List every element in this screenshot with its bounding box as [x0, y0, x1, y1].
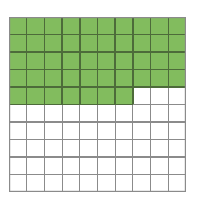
grid-cell-shaded — [133, 17, 151, 35]
grid-cell-unshaded — [9, 157, 27, 175]
grid-cell-shaded — [62, 70, 80, 88]
grid-container — [9, 17, 186, 192]
grid-cell-unshaded — [27, 122, 45, 140]
grid-cell-unshaded — [133, 175, 151, 193]
grid-cell-shaded — [151, 17, 169, 35]
grid-cell-shaded — [168, 35, 186, 53]
grid-cell-unshaded — [80, 157, 98, 175]
grid-cell-unshaded — [168, 105, 186, 123]
grid-cell-unshaded — [151, 175, 169, 193]
grid-cell-shaded — [9, 52, 27, 70]
grid-cell-unshaded — [168, 87, 186, 105]
grid-cell-unshaded — [133, 87, 151, 105]
grid-cell-unshaded — [27, 157, 45, 175]
grid-cell-shaded — [9, 87, 27, 105]
grid-cell-shaded — [62, 52, 80, 70]
grid-cell-shaded — [9, 17, 27, 35]
grid-cell-unshaded — [80, 122, 98, 140]
grid-cell-unshaded — [80, 140, 98, 158]
grid-cell-shaded — [133, 52, 151, 70]
grid-cell-unshaded — [80, 105, 98, 123]
hundred-square-figure: A 10 by 10 grid of equal square cells. T… — [0, 0, 197, 203]
grid-cell-unshaded — [133, 122, 151, 140]
grid-cell-unshaded — [27, 175, 45, 193]
grid-cell-shaded — [27, 35, 45, 53]
grid-cell-unshaded — [44, 140, 62, 158]
grid-cell-unshaded — [9, 105, 27, 123]
grid-cell-shaded — [80, 17, 98, 35]
grid-cell-shaded — [80, 70, 98, 88]
grid-cell-shaded — [115, 87, 133, 105]
grid-cell-unshaded — [9, 122, 27, 140]
grid-cell-unshaded — [98, 140, 116, 158]
grid-cell-unshaded — [98, 122, 116, 140]
grid-cell-unshaded — [62, 140, 80, 158]
grid-cell-unshaded — [44, 175, 62, 193]
grid-cell-shaded — [9, 70, 27, 88]
grid-cell-shaded — [168, 70, 186, 88]
grid-cell-unshaded — [44, 157, 62, 175]
grid-cell-shaded — [133, 35, 151, 53]
grid-cell-shaded — [27, 17, 45, 35]
grid-cell-unshaded — [133, 140, 151, 158]
grid-cell-shaded — [27, 70, 45, 88]
grid-cell-shaded — [62, 35, 80, 53]
grid-cell-shaded — [44, 70, 62, 88]
grid-cell-shaded — [151, 35, 169, 53]
grid-cell-shaded — [44, 35, 62, 53]
grid-cell-shaded — [168, 17, 186, 35]
grid-cell-unshaded — [9, 140, 27, 158]
grid-cell-shaded — [168, 52, 186, 70]
grid-cell-unshaded — [133, 105, 151, 123]
grid-cell-unshaded — [115, 175, 133, 193]
grid-cell-unshaded — [151, 140, 169, 158]
grid-cell-unshaded — [115, 157, 133, 175]
grid-cell-unshaded — [62, 157, 80, 175]
grid-cell-shaded — [44, 87, 62, 105]
grid-cell-shaded — [115, 17, 133, 35]
grid-cell-unshaded — [168, 122, 186, 140]
grid-cell-shaded — [115, 70, 133, 88]
grid-cell-unshaded — [168, 157, 186, 175]
grid-cell-shaded — [44, 52, 62, 70]
grid-cell-shaded — [98, 70, 116, 88]
grid-cell-unshaded — [115, 122, 133, 140]
grid-cell-shaded — [115, 52, 133, 70]
grid-cell-unshaded — [98, 105, 116, 123]
grid-cell-unshaded — [27, 105, 45, 123]
grid-cell-unshaded — [62, 175, 80, 193]
grid-cell-unshaded — [151, 105, 169, 123]
grid-cell-unshaded — [27, 140, 45, 158]
grid-cell-unshaded — [62, 122, 80, 140]
grid-cell-shaded — [98, 87, 116, 105]
grid-cell-unshaded — [151, 87, 169, 105]
grid-cell-shaded — [27, 52, 45, 70]
grid-cell-shaded — [62, 17, 80, 35]
grid-cell-unshaded — [151, 157, 169, 175]
grid-cell-shaded — [98, 52, 116, 70]
grid-cell-shaded — [98, 17, 116, 35]
grid-cell-unshaded — [62, 105, 80, 123]
grid-cell-unshaded — [44, 122, 62, 140]
grid-cell-unshaded — [115, 140, 133, 158]
grid-cell-unshaded — [80, 175, 98, 193]
grid-cell-unshaded — [98, 157, 116, 175]
grid-cell-shaded — [151, 52, 169, 70]
grid-cell-shaded — [80, 87, 98, 105]
grid-cell-shaded — [62, 87, 80, 105]
grid-cell-unshaded — [168, 140, 186, 158]
grid-cell-shaded — [80, 52, 98, 70]
grid-cell-shaded — [133, 70, 151, 88]
grid-cell-unshaded — [44, 105, 62, 123]
grid-cell-shaded — [44, 17, 62, 35]
grid-cell-shaded — [151, 70, 169, 88]
grid-cell-unshaded — [168, 175, 186, 193]
grid-cell-shaded — [98, 35, 116, 53]
grid-cell-unshaded — [151, 122, 169, 140]
grid-cell-shaded — [9, 35, 27, 53]
hundred-square-grid — [9, 17, 186, 192]
grid-cell-shaded — [27, 87, 45, 105]
grid-cell-unshaded — [115, 105, 133, 123]
grid-cell-shaded — [115, 35, 133, 53]
grid-cell-shaded — [80, 35, 98, 53]
